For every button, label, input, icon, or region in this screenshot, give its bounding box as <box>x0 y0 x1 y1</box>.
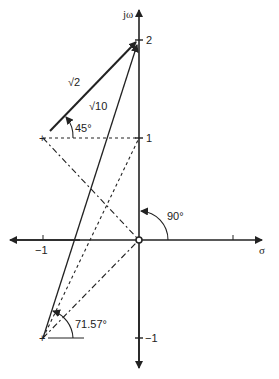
construction-lines <box>43 138 139 338</box>
pole-upper-marker: + <box>39 132 45 144</box>
label-sqrt10: √10 <box>89 100 107 112</box>
label-sigma: σ <box>259 244 265 256</box>
label-y1: 1 <box>146 132 152 144</box>
label-90deg: 90° <box>167 210 184 222</box>
label-xneg1: −1 <box>35 244 48 256</box>
dashed-lower-pole-to-j1 <box>43 138 139 338</box>
labels: jω σ 2 1 −1 −1 √2 √10 45° 90° 71.57° <box>35 8 265 344</box>
axes <box>10 10 262 368</box>
label-jw: jω <box>122 8 133 20</box>
arc-45 <box>66 117 73 138</box>
label-yneg1: −1 <box>145 332 158 344</box>
label-7157deg: 71.57° <box>75 318 107 330</box>
pole-lower-marker: + <box>39 332 45 344</box>
label-45deg: 45° <box>75 122 92 134</box>
arc-90 <box>141 211 168 240</box>
label-y2: 2 <box>146 34 152 46</box>
s-plane-diagram: + + jω σ 2 1 −1 −1 √2 √10 45° 90° 71.57° <box>0 0 279 379</box>
label-sqrt2: √2 <box>68 76 80 88</box>
zero-marker <box>136 237 142 243</box>
angle-arcs <box>53 117 168 338</box>
vectors <box>43 42 137 338</box>
